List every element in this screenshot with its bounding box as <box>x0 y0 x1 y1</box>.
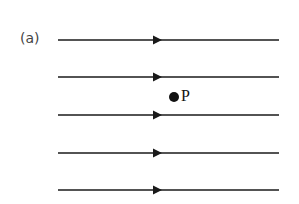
arrow-right-icon <box>153 36 162 45</box>
field-line <box>58 73 279 82</box>
point-p-label: P <box>181 87 190 105</box>
field-lines-diagram <box>0 0 299 204</box>
arrow-right-icon <box>153 73 162 82</box>
field-line <box>58 36 279 45</box>
point-p-dot <box>169 92 179 102</box>
arrow-right-icon <box>153 186 162 195</box>
arrow-right-icon <box>153 111 162 120</box>
arrow-right-icon <box>153 149 162 158</box>
field-line <box>58 186 279 195</box>
field-line <box>58 111 279 120</box>
field-line <box>58 149 279 158</box>
